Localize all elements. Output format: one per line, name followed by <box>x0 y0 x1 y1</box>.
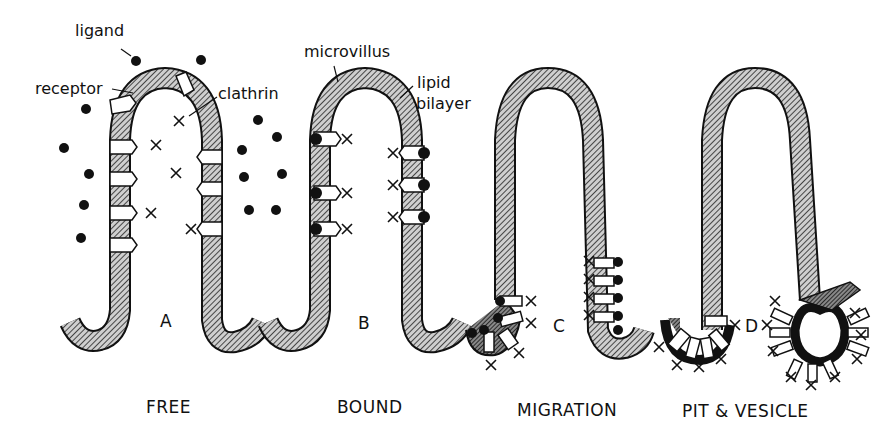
panel-letter-b: B <box>358 315 370 332</box>
label-clathrin: clathrin <box>218 86 279 102</box>
receptor-mediated-endocytosis-diagram <box>0 0 895 438</box>
panel-d-pit-vesicle <box>654 78 869 390</box>
clathrin-icon <box>342 134 398 234</box>
label-lipid: lipid <box>417 75 451 91</box>
panel-letter-c: C <box>553 318 565 335</box>
panel-letter-d: D <box>745 318 758 335</box>
label-bilayer: bilayer <box>416 96 471 112</box>
label-microvillus: microvillus <box>304 44 390 60</box>
caption-free: FREE <box>146 399 191 416</box>
caption-migration: MIGRATION <box>517 402 617 419</box>
label-ligand: ligand <box>75 23 124 39</box>
clathrin-icon <box>146 116 196 234</box>
panel-letter-a: A <box>160 313 172 330</box>
label-receptor: receptor <box>35 81 103 97</box>
microvillus-membrane <box>70 78 262 342</box>
caption-bound: BOUND <box>337 399 403 416</box>
caption-pit-vesicle: PIT & VESICLE <box>682 403 808 420</box>
